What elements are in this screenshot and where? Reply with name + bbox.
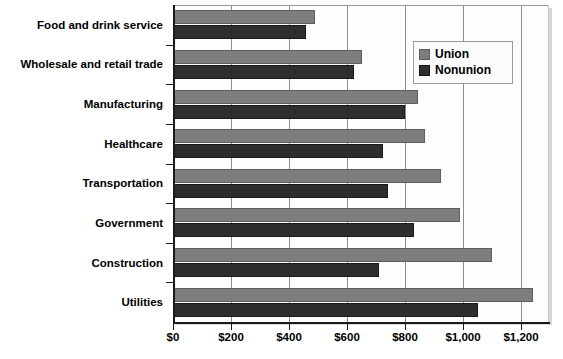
bar-chart: Food and drink serviceWholesale and reta… xyxy=(0,0,563,359)
category-label: Food and drink service xyxy=(37,19,163,31)
x-tick-mark xyxy=(173,324,174,330)
bar-nonunion xyxy=(174,105,405,119)
category-label: Government xyxy=(95,217,163,229)
x-tick-label: $0 xyxy=(167,331,180,343)
x-tick-mark xyxy=(231,324,232,330)
bar-union xyxy=(174,288,533,302)
legend-item-union: Union xyxy=(419,46,507,62)
legend-swatch-union-icon xyxy=(419,49,430,60)
legend-label-nonunion: Nonunion xyxy=(435,64,491,76)
bar-union xyxy=(174,90,418,104)
x-tick-mark xyxy=(347,324,348,330)
x-tick-label: $800 xyxy=(392,331,418,343)
x-tick-label: $200 xyxy=(218,331,244,343)
bar-nonunion xyxy=(174,263,379,277)
bar-nonunion xyxy=(174,184,388,198)
category-label: Construction xyxy=(91,257,163,269)
x-tick-label: $1,000 xyxy=(445,331,480,343)
bar-union xyxy=(174,10,315,24)
category-label: Wholesale and retail trade xyxy=(20,58,163,70)
x-tick-mark xyxy=(521,324,522,330)
x-tick-mark xyxy=(289,324,290,330)
bar-nonunion xyxy=(174,303,478,317)
legend-label-union: Union xyxy=(435,48,469,60)
bar-nonunion xyxy=(174,144,383,158)
bar-union xyxy=(174,248,492,262)
x-axis-line xyxy=(173,322,550,324)
category-label: Healthcare xyxy=(104,138,163,150)
category-label: Transportation xyxy=(82,177,163,189)
legend-item-nonunion: Nonunion xyxy=(419,62,507,78)
legend-swatch-nonunion-icon xyxy=(419,65,430,76)
gridline xyxy=(521,5,522,322)
category-label: Manufacturing xyxy=(84,98,163,110)
bar-nonunion xyxy=(174,25,306,39)
bar-nonunion xyxy=(174,65,354,79)
category-label: Utilities xyxy=(121,296,163,308)
x-tick-label: $600 xyxy=(334,331,360,343)
bar-union xyxy=(174,169,441,183)
x-tick-label: $1,200 xyxy=(503,331,538,343)
y-axis-line xyxy=(173,5,175,323)
chart-legend: Union Nonunion xyxy=(413,41,513,84)
bar-nonunion xyxy=(174,223,414,237)
x-tick-label: $400 xyxy=(276,331,302,343)
gridline xyxy=(405,5,406,322)
x-tick-mark xyxy=(463,324,464,330)
bar-union xyxy=(174,50,362,64)
bar-union xyxy=(174,129,425,143)
bar-union xyxy=(174,208,460,222)
x-tick-mark xyxy=(405,324,406,330)
